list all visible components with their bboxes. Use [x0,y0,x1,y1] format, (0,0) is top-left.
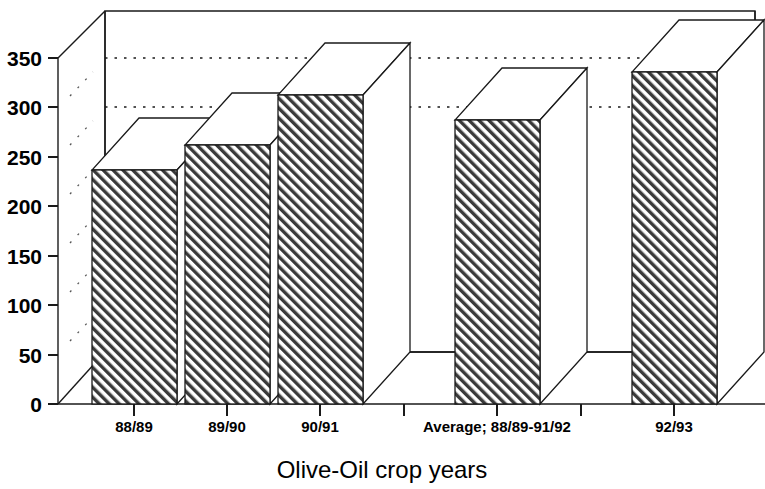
left-wall-depth-dots [70,72,93,341]
y-tick-label: 300 [7,96,42,119]
y-tick-label: 0 [30,393,42,416]
bar-chart: 350 300 250 200 150 100 50 0 [0,0,765,489]
x-tick-label-average: Average; 88/89-91/92 [423,418,571,435]
y-axis-ticks [48,58,58,404]
bar-front-face [185,145,270,404]
x-axis-title: Olive-Oil crop years [277,456,488,483]
y-tick-label: 350 [7,47,42,70]
x-tick-label-88-89: 88/89 [115,418,153,435]
bar-average [455,68,587,404]
bar-side-face [540,68,587,404]
y-axis-labels: 350 300 250 200 150 100 50 0 [7,47,42,416]
bar-side-face [717,20,764,404]
y-tick-label: 100 [7,294,42,317]
x-tick-label-92-93: 92/93 [655,418,693,435]
y-tick-label: 200 [7,195,42,218]
y-tick-label: 150 [7,245,42,268]
x-tick-label-90-91: 90/91 [301,418,339,435]
bar-90-91 [278,43,410,404]
chart-canvas: 350 300 250 200 150 100 50 0 [0,0,765,489]
bar-front-face [632,72,717,404]
x-axis-ticks [134,404,674,416]
bar-front-face [278,95,363,404]
x-axis-labels: 88/89 89/90 90/91 Average; 88/89-91/92 9… [115,418,693,435]
x-tick-label-89-90: 89/90 [208,418,246,435]
y-tick-label: 50 [19,344,42,367]
bar-front-face [92,170,177,404]
bar-front-face [455,120,540,404]
depth-edge-top [58,11,105,58]
bar-92-93 [632,20,764,404]
y-tick-label: 250 [7,146,42,169]
bar-side-face [363,43,410,404]
